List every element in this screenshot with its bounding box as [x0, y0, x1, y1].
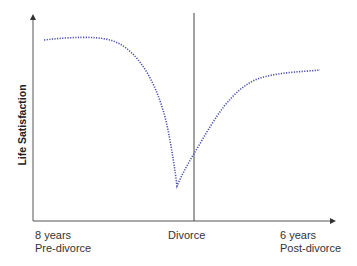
x-tick-post-divorce-label: Post-divorce [280, 242, 341, 255]
life-satisfaction-curve [44, 37, 320, 186]
x-tick-divorce-label: Divorce [168, 229, 205, 242]
x-tick-pre-divorce-label: Pre-divorce [35, 242, 91, 255]
x-tick-post-divorce: 6 years Post-divorce [280, 229, 341, 255]
x-tick-divorce: Divorce [168, 229, 205, 242]
x-tick-pre-divorce: 8 years Pre-divorce [35, 229, 91, 255]
x-tick-post-divorce-years: 6 years [280, 229, 341, 242]
x-tick-pre-divorce-years: 8 years [35, 229, 91, 242]
chart-canvas [0, 0, 357, 266]
y-axis-label: Life Satisfaction [16, 84, 28, 165]
